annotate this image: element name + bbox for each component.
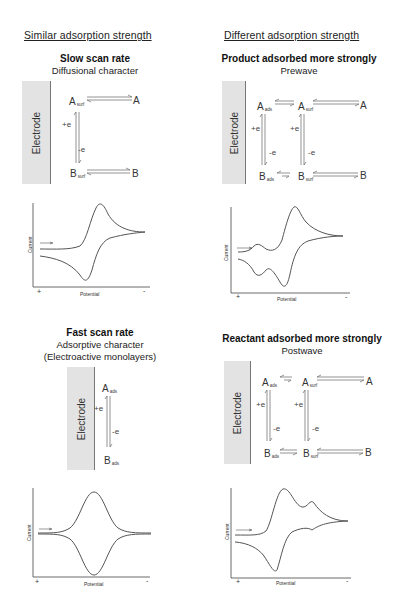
x-axis-label: Potential (276, 580, 295, 586)
y-axis-label: Current (224, 523, 230, 540)
x-axis-end-sign: - (346, 577, 348, 584)
cv-plot-postwave (0, 0, 408, 602)
x-axis-start-sign: + (236, 578, 240, 585)
